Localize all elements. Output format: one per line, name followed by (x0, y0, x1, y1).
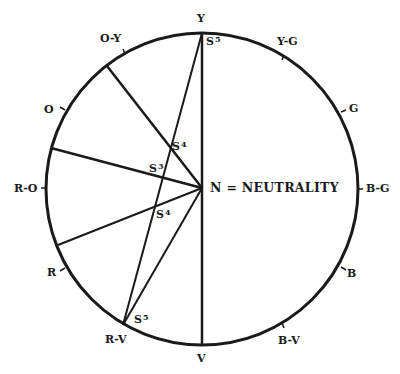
label-y-g: Y-G (277, 36, 298, 47)
label-b: B (347, 268, 356, 279)
line-n-to-ro (51, 148, 202, 188)
label-g: G (349, 103, 358, 114)
label-s3: S3 (149, 163, 164, 174)
label-s5-bottom: S5 (134, 314, 149, 325)
label-b-v: B-V (278, 335, 300, 346)
label-r: R (47, 267, 56, 278)
label-o: O (44, 104, 54, 115)
label-b-g: B-G (366, 183, 389, 194)
label-v: V (197, 353, 206, 364)
line-n-to-r (58, 188, 202, 245)
label-neutrality: N = NEUTRALITY (210, 182, 339, 195)
chord-y-to-rv (123, 33, 202, 325)
hue-circle-diagram (0, 0, 400, 374)
label-s4-upper: S4 (172, 141, 187, 152)
label-r-v: R-V (105, 334, 126, 345)
label-s5-top: S5 (206, 36, 221, 47)
label-o-y: O-Y (100, 33, 121, 44)
label-y: Y (197, 13, 205, 24)
label-s4-lower: S4 (156, 209, 171, 220)
label-r-o: R-O (14, 183, 37, 194)
